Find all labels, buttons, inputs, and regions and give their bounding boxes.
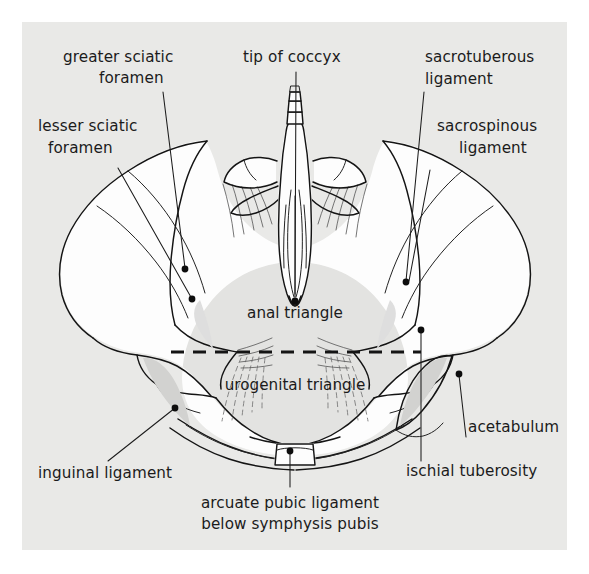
label-acetabulum: acetabulum xyxy=(468,418,559,436)
label-lesser-sciatic-foramen-line2: foramen xyxy=(48,139,113,157)
pubic-symphysis-fill xyxy=(274,443,316,466)
label-ischial-tuberosity: ischial tuberosity xyxy=(406,462,537,480)
marker-lesser-sciatic-foramen xyxy=(189,296,196,303)
leader-acetabulum xyxy=(459,375,466,437)
sacrum-left-ala-fill xyxy=(224,157,276,187)
label-greater-sciatic-foramen-line1: greater sciatic xyxy=(63,48,173,66)
marker-ischial-tuberosity xyxy=(418,327,425,334)
label-arcuate-pubic-ligament-line1: arcuate pubic ligament xyxy=(201,494,379,512)
label-arcuate-pubic-ligament-line2: below symphysis pubis xyxy=(201,515,379,533)
pelvis-illustration: greater sciatic foramen lesser sciatic f… xyxy=(0,0,589,574)
marker-arcuate-pubic-ligament xyxy=(287,448,294,455)
coccyx-segments xyxy=(287,86,303,124)
label-greater-sciatic-foramen-line2: foramen xyxy=(99,69,164,87)
marker-acetabulum xyxy=(456,371,463,378)
label-sacrotuberous-ligament-line1: sacrotuberous xyxy=(425,48,534,66)
label-inguinal-ligament: inguinal ligament xyxy=(38,464,172,482)
marker-sacrotuberous-ligament xyxy=(403,279,410,286)
label-urogenital-triangle: urogenital triangle xyxy=(225,376,366,394)
label-lesser-sciatic-foramen-line1: lesser sciatic xyxy=(38,117,138,135)
leader-inguinal-ligament xyxy=(108,408,175,461)
label-tip-of-coccyx: tip of coccyx xyxy=(243,48,341,66)
sacrum-right-ala-fill xyxy=(314,157,366,187)
label-sacrospinous-ligament-line2: ligament xyxy=(459,139,527,157)
label-anal-triangle: anal triangle xyxy=(247,304,343,322)
anatomy-figure: greater sciatic foramen lesser sciatic f… xyxy=(0,0,589,574)
marker-inguinal-ligament xyxy=(172,405,179,412)
label-sacrotuberous-ligament-line2: ligament xyxy=(425,70,493,88)
label-sacrospinous-ligament-line1: sacrospinous xyxy=(437,117,537,135)
marker-greater-sciatic-foramen xyxy=(182,266,189,273)
